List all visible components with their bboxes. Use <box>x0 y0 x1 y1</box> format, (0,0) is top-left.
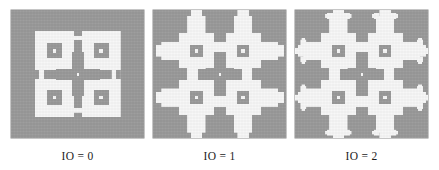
fractal-image-io-1 <box>153 10 286 138</box>
figure-panel: IO = 2 <box>295 10 428 163</box>
figure-panel: IO = 0 <box>11 10 144 163</box>
fractal-image-io-2 <box>295 10 428 138</box>
fractal-canvas <box>11 10 144 138</box>
panel-group: IO = 0 IO = 1 IO = 2 <box>0 0 439 170</box>
panel-caption-io-2: IO = 2 <box>346 151 378 163</box>
fractal-image-io-0 <box>11 10 144 138</box>
panel-caption-io-1: IO = 1 <box>204 151 236 163</box>
fractal-canvas <box>153 10 286 138</box>
figure-panel: IO = 1 <box>153 10 286 163</box>
fractal-canvas <box>295 10 428 138</box>
figure-root: IO = 0 IO = 1 IO = 2 <box>0 0 439 170</box>
panel-caption-io-0: IO = 0 <box>62 151 94 163</box>
